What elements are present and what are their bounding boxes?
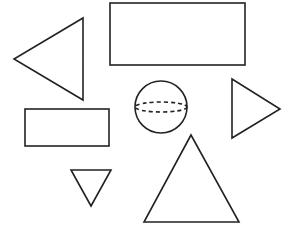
left-pointing-triangle <box>14 18 83 100</box>
sphere-outline <box>135 81 187 133</box>
small-rectangle <box>25 109 109 146</box>
shapes-diagram <box>0 0 297 233</box>
inverted-triangle <box>71 170 111 206</box>
diagram-svg <box>0 0 297 233</box>
top-rectangle <box>110 3 245 65</box>
shape-layer <box>14 3 280 222</box>
large-upright-triangle <box>144 135 239 222</box>
sphere-equator-dashed <box>135 102 187 112</box>
right-pointing-triangle <box>232 79 280 138</box>
sphere <box>135 81 187 133</box>
